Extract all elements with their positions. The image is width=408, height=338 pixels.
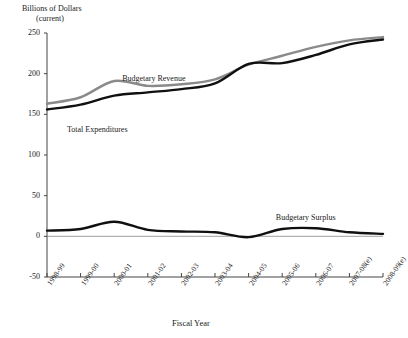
y-tick-label: 100: [14, 150, 40, 159]
series-annotation-label: Total Expenditures: [67, 125, 128, 134]
series-line-total-expenditures: [47, 40, 383, 110]
y-tick-label: 50: [14, 191, 40, 200]
x-tick-marks: [47, 273, 383, 277]
y-tick-label: 200: [14, 69, 40, 78]
series-line-budgetary-surplus: [47, 222, 383, 238]
x-axis-title: Fiscal Year: [172, 318, 210, 328]
series-annotation-label: Budgetary Surplus: [276, 213, 336, 222]
y-tick-label: 0: [14, 231, 40, 240]
y-tick-label: 150: [14, 109, 40, 118]
series-line-budgetary-revenue: [47, 37, 383, 104]
y-tick-label: 250: [14, 28, 40, 37]
series-annotation-label: Budgetary Revenue: [122, 74, 185, 83]
data-series-group: [47, 37, 383, 237]
y-tick-label: -50: [14, 272, 40, 281]
axes-group: [47, 33, 383, 277]
